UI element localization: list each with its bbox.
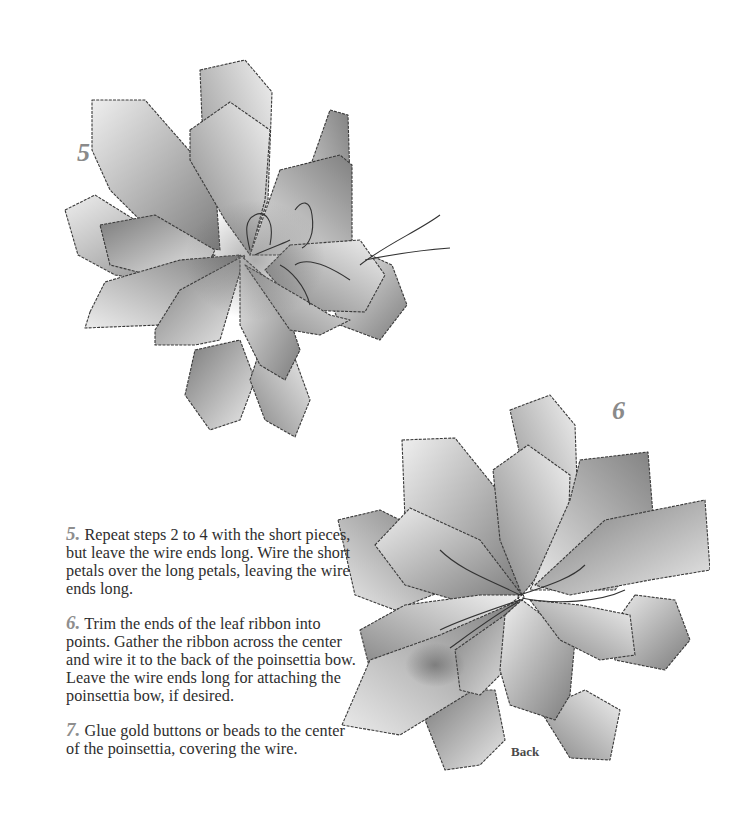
step-5: 5. Repeat steps 2 to 4 with the short pi… [66,525,356,598]
step-5-text: Repeat steps 2 to 4 with the short piece… [66,526,350,598]
figure-5-illustration: 5 [40,50,460,440]
step-6: 6. Trim the ends of the leaf ribbon into… [66,614,356,705]
instruction-steps: 5. Repeat steps 2 to 4 with the short pi… [66,525,356,774]
step-7-text: Glue gold buttons or beads to the center… [66,722,345,758]
step-6-number: 6. [66,612,80,633]
step-7-number: 7. [66,719,80,740]
step-5-number: 5. [66,523,80,544]
figure-6-illustration: 6 [330,390,710,790]
figure-6-caption: Back [511,744,539,760]
step-6-text: Trim the ends of the leaf ribbon into po… [66,615,356,705]
poinsettia-back-drawing [330,390,710,790]
step-7: 7. Glue gold buttons or beads to the cen… [66,721,356,758]
poinsettia-front-drawing [40,50,460,440]
